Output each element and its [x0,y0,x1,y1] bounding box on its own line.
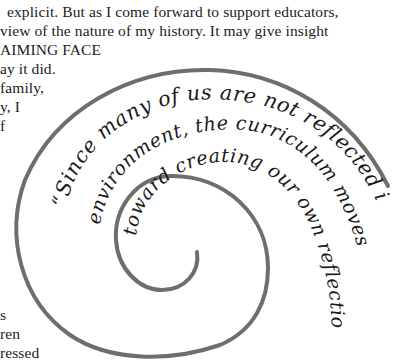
spiral-quote-figure: “Since many of us are not reflected in o… [0,0,401,362]
document-page: explicit. But as I come forward to suppo… [0,0,401,362]
